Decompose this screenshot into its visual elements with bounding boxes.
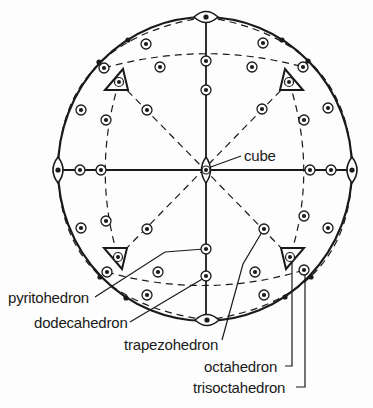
rim-dot bbox=[279, 37, 284, 42]
pole-marker bbox=[142, 290, 152, 300]
label-cube: cube bbox=[244, 148, 276, 163]
pole-marker bbox=[247, 62, 257, 72]
leader-octahedron bbox=[285, 260, 292, 366]
pole-marker bbox=[201, 244, 211, 254]
pole-marker bbox=[76, 105, 86, 115]
fourfold-axis-icon bbox=[202, 157, 211, 183]
pole-marker bbox=[142, 105, 152, 115]
pole-marker bbox=[323, 223, 333, 233]
label-trapezohedron: trapezohedron bbox=[124, 337, 218, 352]
pole-marker bbox=[305, 165, 315, 175]
threefold-axis-icon bbox=[104, 248, 127, 269]
pole-marker bbox=[299, 115, 309, 125]
twofold-axis-icon bbox=[194, 12, 218, 23]
twofold-axis-icon bbox=[195, 315, 219, 326]
pole-marker bbox=[326, 165, 336, 175]
rim-dot bbox=[97, 274, 102, 279]
pole-marker bbox=[142, 224, 152, 234]
pole-marker bbox=[323, 103, 333, 113]
pole-marker bbox=[75, 165, 85, 175]
rim-dot bbox=[308, 274, 313, 279]
leader-trapezohedron bbox=[222, 232, 262, 340]
pole-marker bbox=[99, 63, 109, 73]
pole-marker bbox=[96, 165, 106, 175]
label-dodecahedron: dodecahedron bbox=[34, 315, 128, 330]
twofold-axis-icon bbox=[53, 157, 63, 183]
pole-marker bbox=[257, 104, 267, 114]
pole-marker bbox=[298, 62, 308, 72]
rim-dot bbox=[125, 37, 130, 42]
label-trisoctahedron: trisoctahedron bbox=[193, 380, 285, 395]
pole-marker bbox=[259, 290, 269, 300]
pole-marker bbox=[155, 62, 165, 72]
great-circle-arc-se bbox=[207, 170, 352, 320]
pole-marker bbox=[299, 265, 309, 275]
leader-cube bbox=[208, 156, 241, 168]
stereographic-projection-diagram: cube pyritohedron dodecahedron trapezohe… bbox=[0, 0, 373, 408]
label-pyritohedron: pyritohedron bbox=[8, 290, 89, 305]
threefold-axis-icon bbox=[105, 69, 128, 90]
pole-marker bbox=[201, 85, 211, 95]
pole-marker bbox=[258, 38, 268, 48]
pole-marker bbox=[259, 224, 269, 234]
pole-marker bbox=[201, 56, 211, 66]
pole-marker bbox=[153, 267, 163, 277]
pole-marker bbox=[101, 216, 111, 226]
pole-marker bbox=[76, 223, 86, 233]
rim-dot bbox=[282, 294, 287, 299]
pole-marker bbox=[250, 267, 260, 277]
great-circle-arc-ne bbox=[206, 17, 352, 170]
pole-marker bbox=[201, 271, 211, 281]
pole-marker bbox=[101, 115, 111, 125]
twofold-axis-icon bbox=[347, 157, 357, 183]
pole-marker bbox=[141, 39, 151, 49]
pole-marker bbox=[299, 211, 309, 221]
threefold-axis-icon bbox=[280, 69, 303, 90]
leader-trisoctahedron bbox=[296, 272, 305, 387]
pole-marker bbox=[102, 267, 112, 277]
rim-dot bbox=[123, 295, 128, 300]
label-octahedron: octahedron bbox=[204, 359, 277, 374]
great-circle-arc-nw bbox=[58, 17, 206, 170]
